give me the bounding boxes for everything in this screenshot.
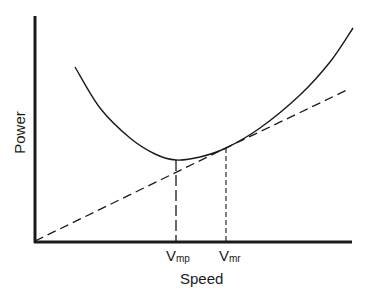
tick-label-vmr: Vmr [219,247,241,264]
x-axis-title: Speed [180,270,223,287]
tick-sub: mr [229,253,241,264]
tick-main: V [219,247,229,264]
tick-sub: mp [176,253,190,264]
tangent-line [35,90,347,241]
tick-main: V [166,247,176,264]
y-axis-title: Power [11,108,28,158]
power-curve [75,28,353,160]
tick-label-vmp: Vmp [166,247,190,264]
